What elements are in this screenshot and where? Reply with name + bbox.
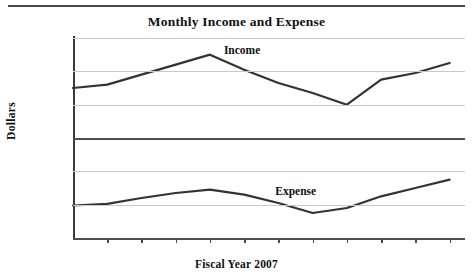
gridline--20000 bbox=[73, 171, 465, 172]
chart-page: Monthly Income and Expense Dollars 60,00… bbox=[0, 0, 473, 278]
gridline-40000 bbox=[73, 71, 465, 72]
x-tick bbox=[244, 238, 245, 243]
income-line bbox=[73, 55, 450, 105]
y-axis-title: Dollars bbox=[5, 89, 17, 153]
x-tick bbox=[278, 238, 279, 243]
gridline--60000 bbox=[73, 238, 465, 240]
gridline-60000 bbox=[73, 38, 465, 39]
gridline--40000 bbox=[73, 205, 465, 206]
gridline-20000 bbox=[73, 105, 465, 106]
x-tick bbox=[176, 238, 177, 243]
x-tick bbox=[141, 238, 142, 243]
x-tick bbox=[210, 238, 211, 243]
plot-area: 60,00040,00020,0000(20,000)(40,000)(60,0… bbox=[73, 38, 465, 238]
x-tick bbox=[450, 238, 451, 243]
top-divider bbox=[8, 5, 465, 7]
x-axis-title: Fiscal Year 2007 bbox=[0, 258, 473, 270]
x-tick bbox=[107, 238, 108, 243]
series-label-expense: Expense bbox=[275, 185, 316, 197]
x-tick bbox=[415, 238, 416, 243]
series-label-income: Income bbox=[224, 44, 260, 56]
gridline-0 bbox=[73, 138, 465, 140]
x-tick bbox=[381, 238, 382, 243]
chart-title: Monthly Income and Expense bbox=[0, 14, 473, 30]
expense-line bbox=[73, 180, 450, 213]
x-tick bbox=[347, 238, 348, 243]
x-tick bbox=[313, 238, 314, 243]
